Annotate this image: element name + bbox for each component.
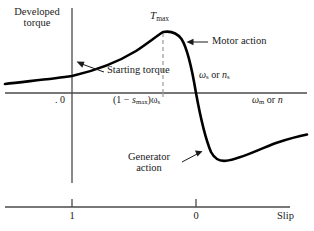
peak-speed-tick-label: (1 − smax)ωs (113, 95, 160, 106)
peak-speed-omega-sub: s (158, 98, 161, 105)
slip-tick-label-1: 1 (62, 210, 82, 221)
speed-or: or (264, 94, 277, 105)
origin-label: . 0 (55, 95, 65, 106)
generator-action-line1: Generator (118, 151, 180, 162)
tmax-label: Tmax (150, 10, 169, 22)
peak-speed-prefix: (1 − (113, 94, 132, 105)
sync-speed-label: ωs or ns (199, 70, 230, 81)
sync-n-sub: s (227, 73, 230, 80)
generator-action-line2: action (118, 162, 180, 173)
starting-torque-label: Starting torque (107, 64, 170, 75)
motor-action-arrowhead (187, 39, 194, 45)
slip-tick-label-0: 0 (186, 210, 206, 221)
starting-torque-arrowhead (77, 62, 85, 68)
generator-action-leader (182, 153, 199, 162)
torque-speed-figure: Developed torque Tmax Starting torque Mo… (0, 0, 314, 231)
y-axis-label-line1: Developed (6, 6, 68, 17)
slip-axis-label: Slip (277, 210, 294, 221)
sync-or: or (209, 69, 222, 80)
sync-omega: ω (199, 69, 206, 80)
tmax-subscript: max (156, 14, 169, 23)
peak-speed-s-sub: max (136, 98, 148, 105)
speed-omega: ω (252, 94, 259, 105)
generator-action-label: Generator action (118, 151, 180, 173)
speed-axis-label: ωm or n (252, 95, 283, 106)
speed-n: n (278, 94, 283, 105)
y-axis-label-line2: torque (6, 17, 68, 28)
y-axis-label: Developed torque (6, 6, 68, 28)
motor-action-label: Motor action (212, 35, 267, 46)
peak-speed-suffix: )ω (148, 94, 158, 105)
generator-action-arrowhead (195, 151, 203, 157)
